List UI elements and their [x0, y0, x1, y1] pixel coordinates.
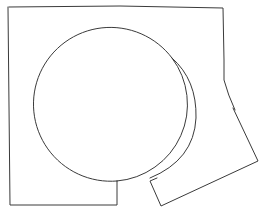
circle-right-edge — [117, 58, 187, 181]
frame-outline — [8, 6, 235, 205]
circle-outline — [33, 27, 172, 181]
fold-arc — [150, 58, 196, 178]
line-drawing — [0, 0, 266, 217]
